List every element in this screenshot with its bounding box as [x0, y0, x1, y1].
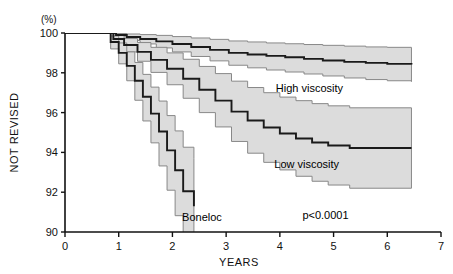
x-tick-label: 2 [169, 240, 175, 252]
x-tick-label: 5 [331, 240, 337, 252]
annotation-p-value: p<0.0001 [302, 209, 348, 221]
x-tick-label: 3 [223, 240, 229, 252]
y-axis-title: NOT REVISED [8, 93, 20, 173]
survival-chart: 909294969810001234567(%)YEARSNOT REVISED… [0, 0, 453, 274]
x-tick-label: 4 [277, 240, 283, 252]
y-tick-label: 90 [46, 226, 58, 238]
y-tick-label: 100 [40, 27, 58, 39]
x-tick-label: 1 [116, 240, 122, 252]
y-tick-label: 98 [46, 67, 58, 79]
confidence-bands-layer [65, 33, 411, 252]
annotation-low-viscosity: Low viscosity [274, 158, 339, 170]
x-tick-label: 7 [438, 240, 444, 252]
y-axis-unit: (%) [41, 14, 57, 25]
x-axis-title: YEARS [219, 256, 259, 268]
annotation-high-viscosity: High viscosity [276, 82, 344, 94]
y-tick-label: 94 [46, 146, 58, 158]
x-tick-label: 6 [384, 240, 390, 252]
y-tick-label: 96 [46, 107, 58, 119]
x-tick-label: 0 [62, 240, 68, 252]
y-tick-label: 92 [46, 186, 58, 198]
annotation-boneloc: Boneloc [182, 211, 222, 223]
chart-canvas: 909294969810001234567(%)YEARSNOT REVISED… [0, 0, 453, 274]
